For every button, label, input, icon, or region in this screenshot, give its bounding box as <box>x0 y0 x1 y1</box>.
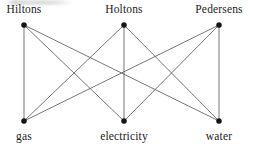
vertex-water <box>216 118 221 123</box>
vertex-hiltons <box>21 22 26 27</box>
node-label-holtons: Holtons <box>105 4 142 16</box>
vertex-gas <box>21 118 26 123</box>
edges-group <box>24 25 219 121</box>
bipartite-graph-figure: HiltonsHoltonsPedersensgaselectricitywat… <box>0 0 254 150</box>
node-label-hiltons: Hiltons <box>7 4 42 16</box>
vertex-holtons <box>121 22 126 27</box>
graph-canvas <box>0 0 254 150</box>
vertex-pedersens <box>216 22 221 27</box>
vertex-electricity <box>121 118 126 123</box>
node-label-water: water <box>206 131 232 143</box>
node-label-electricity: electricity <box>100 131 148 143</box>
node-label-pedersens: Pedersens <box>195 4 242 16</box>
node-label-gas: gas <box>16 131 32 143</box>
